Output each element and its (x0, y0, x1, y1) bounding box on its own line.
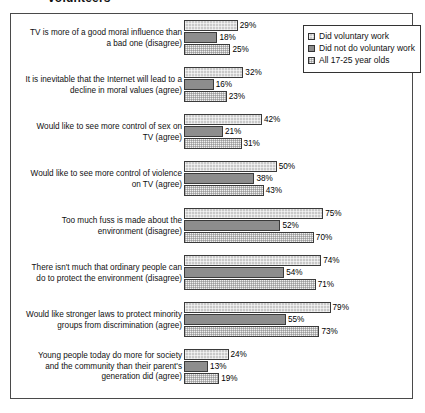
bar-row: 75% (184, 208, 409, 219)
chart-frame: TV is more of a good moral influence tha… (10, 13, 413, 399)
bar-group-label-line: TV (agree) (15, 132, 182, 143)
bar-series1[interactable] (184, 302, 331, 313)
bar-row: 52% (184, 220, 409, 231)
bar-group-label-line: and the community than their parent's (15, 362, 182, 373)
bar-group-label: Too much fuss is made about theenvironme… (15, 216, 182, 237)
bar-value-label: 75% (325, 208, 341, 219)
bar-group-label: Would like to see more control of sex on… (15, 122, 182, 143)
bar-group-label: Would like stronger laws to protect mino… (15, 310, 182, 331)
bar-series2[interactable] (184, 126, 223, 137)
bar-group-label-line: Would like to see more control of violen… (15, 169, 182, 180)
bar-group-label-line: decline in moral values (agree) (15, 85, 182, 96)
legend-swatch-icon-series3 (308, 57, 315, 64)
bar-row: 19% (184, 373, 409, 384)
bar-series1[interactable] (184, 255, 321, 266)
bar-row: 50% (184, 161, 409, 172)
bar-series3[interactable] (184, 279, 316, 290)
bar-series3[interactable] (184, 373, 219, 384)
bar-row: 55% (184, 314, 409, 325)
bar-group-label-line: on TV (agree) (15, 179, 182, 190)
bar-series3[interactable] (184, 326, 319, 337)
bar-row: 24% (184, 349, 409, 360)
bar-value-label: 52% (282, 220, 298, 231)
bar-value-label: 70% (316, 232, 332, 243)
bar-value-label: 54% (286, 267, 302, 278)
legend-label-series2: Did not do voluntary work (319, 44, 415, 53)
bar-row: 42% (184, 114, 409, 125)
legend-item-did-voluntary-work[interactable]: Did voluntary work (308, 32, 415, 41)
bar-group-label-line: Would like to see more control of sex on (15, 122, 182, 133)
legend-label-series1: Did voluntary work (319, 32, 389, 41)
bar-row: 70% (184, 232, 409, 243)
legend-swatch-icon-series2 (308, 45, 315, 52)
bar-value-label: 73% (321, 326, 337, 337)
bar-group-bars: 24%13%19% (184, 349, 409, 385)
bar-group-label: There isn't much that ordinary people ca… (15, 263, 182, 284)
bar-group: Would like to see more control of sex on… (11, 112, 412, 152)
bar-value-label: 74% (323, 255, 339, 266)
bar-series2[interactable] (184, 361, 208, 372)
legend-item-all-17-25-year-olds[interactable]: All 17-25 year olds (308, 56, 415, 65)
bar-series1[interactable] (184, 20, 238, 31)
bar-series2[interactable] (184, 220, 280, 231)
bar-series2[interactable] (184, 314, 286, 325)
bar-group-label-line: a bad one (disagree) (15, 38, 182, 49)
bar-group: Would like to see more control of violen… (11, 159, 412, 199)
bar-value-label: 42% (264, 114, 280, 125)
bar-value-label: 43% (266, 185, 282, 196)
bar-value-label: 24% (231, 349, 247, 360)
bar-value-label: 31% (244, 138, 260, 149)
bar-row: 73% (184, 326, 409, 337)
legend-swatch-icon-series1 (308, 33, 315, 40)
bar-group-label-line: TV is more of a good moral influence tha… (15, 28, 182, 39)
bar-value-label: 79% (333, 302, 349, 313)
bar-value-label: 29% (240, 20, 256, 31)
bar-value-label: 71% (318, 279, 334, 290)
bar-series3[interactable] (184, 138, 242, 149)
bar-group-label-line: Young people today do more for society (15, 351, 182, 362)
bar-value-label: 16% (216, 79, 232, 90)
bar-series2[interactable] (184, 173, 254, 184)
bar-group: Would like stronger laws to protect mino… (11, 300, 412, 340)
chart-title: volunteers (48, 0, 111, 5)
bar-group-label: TV is more of a good moral influence tha… (15, 28, 182, 49)
bar-group-bars: 74%54%71% (184, 255, 409, 291)
bar-group-label-line: groups from discrimination (agree) (15, 320, 182, 331)
bar-series2[interactable] (184, 32, 217, 43)
bar-series2[interactable] (184, 79, 214, 90)
bar-series1[interactable] (184, 161, 277, 172)
bar-value-label: 25% (232, 44, 248, 55)
bar-series3[interactable] (184, 91, 227, 102)
bar-group: There isn't much that ordinary people ca… (11, 253, 412, 293)
bar-group-label-line: It is inevitable that the Internet will … (15, 75, 182, 86)
bar-group-label-line: There isn't much that ordinary people ca… (15, 263, 182, 274)
bar-group-label: Would like to see more control of violen… (15, 169, 182, 190)
bar-series1[interactable] (184, 349, 229, 360)
chart-legend: Did voluntary work Did not do voluntary … (303, 25, 421, 73)
bar-row: 21% (184, 126, 409, 137)
bar-series3[interactable] (184, 232, 314, 243)
bar-value-label: 19% (221, 373, 237, 384)
bar-group-bars: 50%38%43% (184, 161, 409, 197)
legend-label-series3: All 17-25 year olds (319, 56, 389, 65)
bar-value-label: 38% (256, 173, 272, 184)
bar-value-label: 13% (210, 361, 226, 372)
bar-series1[interactable] (184, 67, 243, 78)
bar-value-label: 18% (219, 32, 235, 43)
bar-series1[interactable] (184, 114, 262, 125)
bar-row: 71% (184, 279, 409, 290)
bar-row: 16% (184, 79, 409, 90)
bar-row: 79% (184, 302, 409, 313)
legend-item-did-not-do-voluntary-work[interactable]: Did not do voluntary work (308, 44, 415, 53)
bar-series2[interactable] (184, 267, 284, 278)
bar-group: Young people today do more for societyan… (11, 347, 412, 387)
bar-value-label: 23% (229, 91, 245, 102)
bar-series1[interactable] (184, 208, 323, 219)
bar-series3[interactable] (184, 44, 230, 55)
bar-group-bars: 79%55%73% (184, 302, 409, 338)
bar-series3[interactable] (184, 185, 264, 196)
bar-row: 43% (184, 185, 409, 196)
bar-group-bars: 75%52%70% (184, 208, 409, 244)
bar-row: 23% (184, 91, 409, 102)
bar-row: 31% (184, 138, 409, 149)
